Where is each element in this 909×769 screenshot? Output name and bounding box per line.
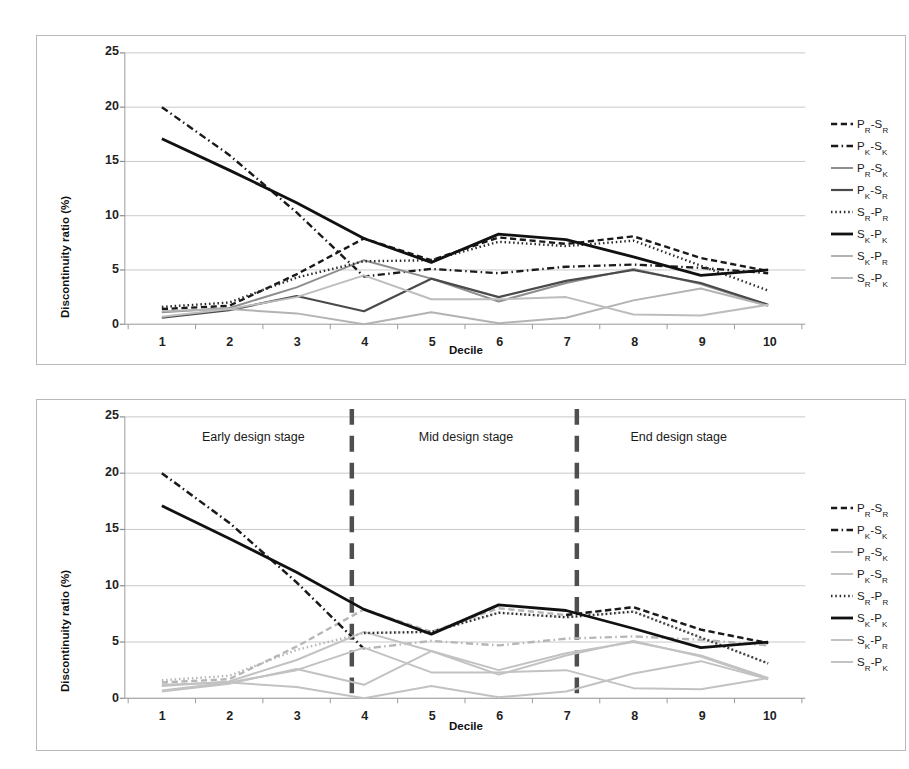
y-tick-label-5: 5 [77,634,119,648]
legend-swatch-SR-PK-icon [830,657,854,667]
series-line-SK-PK [162,139,768,276]
legend-item-SR-PR[interactable]: SR-PR [830,201,888,223]
legend-label-PK-SR: PK-SR [857,184,888,196]
legend-item-PR-SK[interactable]: PR-SK [830,541,888,563]
legend-label-PR-SK: PR-SK [857,162,888,174]
legend-label-SR-PR: SR-PR [857,590,888,602]
legend-swatch-SR-PR-icon [830,591,854,601]
legend-item-SR-PK[interactable]: SR-PK [830,651,888,673]
legend-item-PR-SR[interactable]: PR-SR [830,113,888,135]
legend-label-PK-SK: PK-SK [857,140,887,152]
y-tick-label-15: 15 [77,153,119,167]
legend-item-SR-PR[interactable]: SR-PR [830,585,888,607]
y-tick-label-0: 0 [77,317,119,331]
legend-label-SK-PR: SK-PR [857,634,888,646]
legend-item-SR-PK[interactable]: SR-PK [830,267,888,289]
chart-panel-bottom: 051015202512345678910DecileDiscontinuity… [36,399,906,751]
legend-swatch-SK-PR-icon [830,635,854,645]
legend-swatch-PK-SR-icon [830,185,854,195]
chart-panel-top: 051015202512345678910DecileDiscontinuity… [36,35,906,365]
y-tick-label-10: 10 [77,578,119,592]
chart-bottom-plot [37,400,905,750]
legend-item-SK-PK[interactable]: SK-PK [830,607,888,629]
y-tick-label-25: 25 [77,44,119,58]
legend-swatch-PR-SK-icon [830,547,854,557]
end-stage-label: End design stage [594,430,764,444]
series-line-PK-SK [162,473,364,649]
y-axis-title: Discontinuity ratio (%) [59,570,71,692]
legend-label-SR-PK: SR-PK [857,656,888,668]
legend-label-PK-SR: PK-SR [857,568,888,580]
legend-item-SK-PK[interactable]: SK-PK [830,223,888,245]
x-axis-title: Decile [125,720,807,732]
legend-item-PR-SK[interactable]: PR-SK [830,157,888,179]
legend-bottom: PR-SRPK-SKPR-SKPK-SRSR-PRSK-PKSK-PRSR-PK [830,497,888,673]
legend-label-SR-PK: SR-PK [857,272,888,284]
legend-swatch-SK-PK-icon [830,229,854,239]
legend-label-SK-PK: SK-PK [857,612,887,624]
legend-swatch-SR-PR-icon [830,207,854,217]
legend-label-PK-SK: PK-SK [857,524,887,536]
y-tick-label-25: 25 [77,408,119,422]
legend-item-PR-SR[interactable]: PR-SR [830,497,888,519]
legend-item-PK-SR[interactable]: PK-SR [830,563,888,585]
legend-swatch-PR-SK-icon [830,163,854,173]
legend-swatch-PK-SR-icon [830,569,854,579]
legend-item-PK-SK[interactable]: PK-SK [830,519,888,541]
y-tick-label-20: 20 [77,99,119,113]
legend-top: PR-SRPK-SKPR-SKPK-SRSR-PRSK-PKSK-PRSR-PK [830,113,888,289]
legend-item-PK-SK[interactable]: PK-SK [830,135,888,157]
y-tick-label-10: 10 [77,208,119,222]
chart-top-plot [37,36,905,364]
legend-swatch-SK-PR-icon [830,251,854,261]
mid-stage-label: Mid design stage [381,430,551,444]
y-tick-label-0: 0 [77,691,119,705]
legend-swatch-PR-SR-icon [830,119,854,129]
series-line-SK-PK [162,506,768,648]
figure-page: 051015202512345678910DecileDiscontinuity… [0,0,909,769]
early-stage-label: Early design stage [168,430,338,444]
legend-label-SK-PK: SK-PK [857,228,887,240]
legend-label-SK-PR: SK-PR [857,250,888,262]
legend-swatch-PK-SK-icon [830,525,854,535]
y-tick-label-15: 15 [77,521,119,535]
legend-swatch-SR-PK-icon [830,273,854,283]
y-tick-label-20: 20 [77,465,119,479]
x-axis-title: Decile [125,344,807,356]
y-tick-label-5: 5 [77,262,119,276]
legend-item-SK-PR[interactable]: SK-PR [830,245,888,267]
legend-swatch-PK-SK-icon [830,141,854,151]
legend-label-PR-SK: PR-SK [857,546,888,558]
y-axis-title: Discontinuity ratio (%) [59,196,71,318]
legend-label-PR-SR: PR-SR [857,502,888,514]
legend-label-SR-PR: SR-PR [857,206,888,218]
legend-swatch-PR-SR-icon [830,503,854,513]
legend-swatch-SK-PK-icon [830,613,854,623]
legend-label-PR-SR: PR-SR [857,118,888,130]
legend-item-SK-PR[interactable]: SK-PR [830,629,888,651]
legend-item-PK-SR[interactable]: PK-SR [830,179,888,201]
